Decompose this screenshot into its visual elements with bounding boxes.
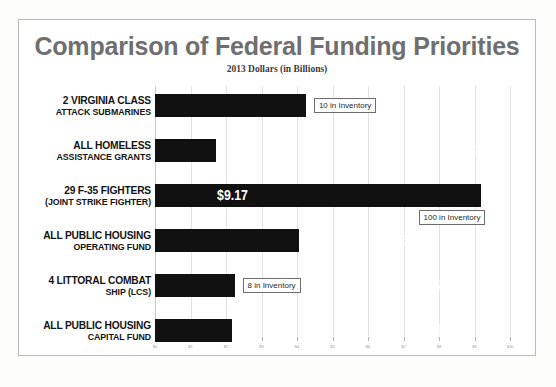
bar-row: $2.18	[155, 319, 510, 342]
category-label-line1: ALL PUBLIC HOUSING	[38, 320, 151, 331]
inventory-annotation: 10 in Inventory	[314, 98, 376, 113]
category-label-line1: ALL HOMELESS	[38, 140, 151, 151]
category-label-line1: ALL PUBLIC HOUSING	[38, 230, 151, 241]
bar[interactable]	[155, 94, 306, 117]
axis-tick-label: $0	[140, 344, 170, 350]
category-label-line1: 2 VIRGINIA CLASS	[38, 95, 151, 106]
category-label-line2: OPERATING FUND	[38, 241, 151, 252]
axis-tick-label: $3	[247, 344, 277, 350]
bar-value-label: $4.25	[371, 94, 504, 117]
category-label-line2: ASSISTANCE GRANTS	[38, 151, 151, 162]
axis-tick-label: $5	[318, 344, 348, 350]
gridline	[191, 86, 192, 336]
bar-row: $4.06	[155, 229, 510, 252]
axis-tick-label: $1	[176, 344, 206, 350]
category-label: ALL PUBLIC HOUSINGOPERATING FUND	[38, 230, 151, 252]
category-label-line1: 4 LITTORAL COMBAT	[38, 275, 151, 286]
bar[interactable]	[155, 229, 299, 252]
axis-tick-label: $7	[389, 344, 419, 350]
bar-value-label: $9.17	[218, 184, 504, 207]
inventory-annotation: 100 in Inventory	[419, 210, 486, 225]
axis-tick-label: $8	[424, 344, 454, 350]
category-label: 29 F-35 FIGHTERS(JOINT STRIKE FIGHTER)	[38, 185, 151, 207]
bar[interactable]	[155, 274, 235, 297]
bar[interactable]	[155, 139, 216, 162]
axis-tick-label: $2	[211, 344, 241, 350]
gridline	[297, 86, 298, 336]
category-label: ALL PUBLIC HOUSINGCAPITAL FUND	[38, 320, 151, 342]
category-label-line1: 29 F-35 FIGHTERS	[38, 185, 151, 196]
gridline	[262, 86, 263, 336]
gridline	[404, 86, 405, 336]
gridline	[510, 86, 511, 336]
inventory-annotation: 8 in Inventory	[243, 278, 301, 293]
bar-row: $1.73	[155, 139, 510, 162]
bar-row: $2.24	[155, 274, 510, 297]
chart-subtitle: 2013 Dollars (in Billions)	[19, 64, 535, 74]
bar-row: $9.17	[155, 184, 510, 207]
category-label: 4 LITTORAL COMBATSHIP (LCS)	[38, 275, 151, 297]
axis-tick-mark	[510, 337, 511, 341]
category-label: ALL HOMELESSASSISTANCE GRANTS	[38, 140, 151, 162]
axis-tick-label: $10	[495, 344, 525, 350]
category-label: 2 VIRGINIA CLASSATTACK SUBMARINES	[38, 95, 151, 117]
chart-frame: Comparison of Federal Funding Priorities…	[18, 19, 536, 356]
bar-value-label: $2.18	[436, 319, 504, 342]
bar-value-label: $1.73	[450, 139, 504, 162]
gridline	[155, 86, 156, 336]
bar-value-label: $4.06	[377, 229, 504, 252]
gridline	[226, 86, 227, 336]
bar[interactable]	[155, 319, 232, 342]
gridline	[333, 86, 334, 336]
axis-tick-label: $9	[460, 344, 490, 350]
plot-area: $0$1$2$3$4$5$6$7$8$9$10$4.2510 in Invent…	[155, 86, 510, 358]
category-label-line2: ATTACK SUBMARINES	[38, 106, 151, 117]
bar-value-label: $2.24	[434, 274, 504, 297]
slide-canvas: Comparison of Federal Funding Priorities…	[0, 0, 556, 387]
category-label-line2: CAPITAL FUND	[38, 331, 151, 342]
category-label-column: 2 VIRGINIA CLASSATTACK SUBMARINESALL HOM…	[27, 86, 151, 358]
page-title: Comparison of Federal Funding Priorities	[19, 32, 535, 61]
axis-tick-label: $6	[353, 344, 383, 350]
category-label-line2: (JOINT STRIKE FIGHTER)	[38, 196, 151, 207]
category-label-line2: SHIP (LCS)	[38, 286, 151, 297]
gridline	[368, 86, 369, 336]
axis-tick-label: $4	[282, 344, 312, 350]
